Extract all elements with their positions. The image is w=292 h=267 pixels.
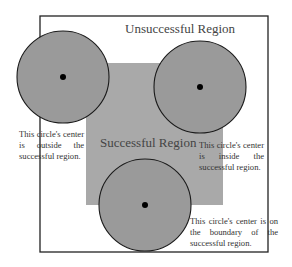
successful-region-label: Successful Region <box>100 135 196 151</box>
center-dot <box>142 202 148 208</box>
note-boundary: This circle's center is on the boundary … <box>190 216 278 249</box>
center-dot <box>60 74 66 80</box>
note-outside: This circle's center is outside the succ… <box>19 129 84 162</box>
center-dot <box>197 84 203 90</box>
unsuccessful-region-label: Unsuccessful Region <box>125 21 235 37</box>
circle-boundary <box>99 159 191 251</box>
note-inside: This circle's center is inside the succe… <box>199 140 264 173</box>
circle-inside <box>154 41 246 133</box>
circle-outside <box>17 31 109 123</box>
